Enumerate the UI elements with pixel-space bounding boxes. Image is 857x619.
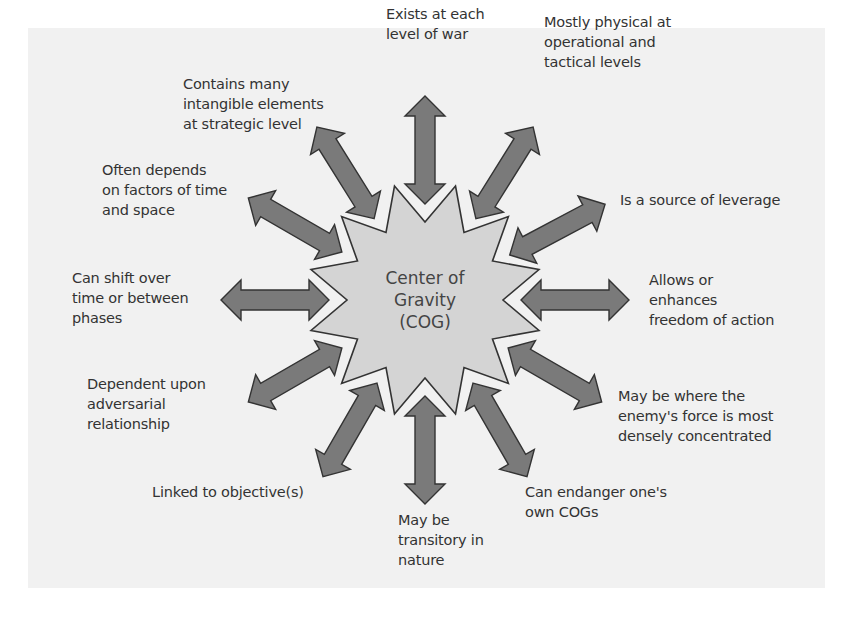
label-time-and-space: Often depends on factors of time and spa…: [102, 160, 227, 220]
label-intangible-elements: Contains many intangible elements at str…: [183, 74, 324, 134]
double-arrow-icon: [306, 373, 395, 487]
label-transitory: May be transitory in nature: [398, 510, 484, 570]
label-exists-each-level: Exists at each level of war: [386, 4, 485, 44]
double-arrow-icon: [521, 280, 629, 320]
double-arrow-icon: [500, 187, 614, 273]
label-adversarial-relationship: Dependent upon adversarial relationship: [87, 374, 206, 434]
double-arrow-icon: [405, 96, 445, 204]
label-mostly-physical: Mostly physical at operational and tacti…: [544, 12, 671, 72]
double-arrow-icon: [238, 331, 352, 420]
label-enemy-force-concentrated: May be where the enemy's force is most d…: [618, 386, 773, 446]
label-source-of-leverage: Is a source of leverage: [620, 190, 780, 210]
double-arrow-icon: [405, 396, 445, 504]
double-arrow-icon: [456, 373, 545, 487]
double-arrow-icon: [238, 181, 352, 270]
label-linked-to-objectives: Linked to objective(s): [152, 482, 304, 502]
label-endanger-own-cogs: Can endanger one's own COGs: [525, 482, 667, 522]
label-shift-over-time: Can shift over time or between phases: [72, 268, 189, 328]
double-arrow-icon: [221, 280, 329, 320]
double-arrow-icon: [498, 331, 612, 420]
label-freedom-of-action: Allows or enhances freedom of action: [649, 270, 774, 330]
double-arrow-icon: [459, 116, 550, 229]
center-of-gravity-label: Center of Gravity (COG): [355, 267, 495, 333]
